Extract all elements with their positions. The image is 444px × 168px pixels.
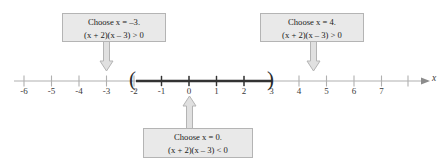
axis-variable-label: x bbox=[432, 73, 436, 83]
interval-open-bracket: ( bbox=[129, 69, 136, 90]
tick-label-1: 1 bbox=[205, 86, 229, 96]
tick-label-neg3: -3 bbox=[95, 86, 119, 96]
interval-close-bracket: ) bbox=[267, 69, 274, 90]
down-arrow-icon bbox=[306, 41, 321, 72]
up-arrow-icon bbox=[182, 95, 197, 129]
callout-choose-0: Choose x = 0. (x + 2)(x – 3) < 0 bbox=[143, 128, 253, 158]
callout-right-line2: (x + 2)(x – 3) > 0 bbox=[261, 29, 363, 42]
tick-label-neg5: -5 bbox=[40, 86, 64, 96]
callout-right-line1: Choose x = 4. bbox=[261, 16, 363, 29]
tick-label-neg1: -1 bbox=[150, 86, 174, 96]
down-arrow-icon bbox=[99, 41, 114, 72]
callout-bottom-line2: (x + 2)(x – 3) < 0 bbox=[144, 144, 252, 157]
tick-label-4: 4 bbox=[287, 86, 311, 96]
axis-arrowhead-icon bbox=[421, 78, 430, 85]
tick-label-6: 6 bbox=[342, 86, 366, 96]
callout-choose-neg3: Choose x = –3. (x + 2)(x – 3) > 0 bbox=[62, 13, 166, 42]
tick-label-2: 2 bbox=[232, 86, 256, 96]
tick-label-neg6: -6 bbox=[12, 86, 36, 96]
callout-left-line1: Choose x = –3. bbox=[63, 16, 165, 29]
number-line-figure: ( ) -6 -5 -4 -3 -2 -1 0 1 2 3 4 5 6 7 x … bbox=[0, 0, 444, 168]
tick-label-neg4: -4 bbox=[67, 86, 91, 96]
callout-bottom-line1: Choose x = 0. bbox=[144, 131, 252, 144]
callout-left-line2: (x + 2)(x – 3) > 0 bbox=[63, 29, 165, 42]
callout-choose-4: Choose x = 4. (x + 2)(x – 3) > 0 bbox=[260, 13, 364, 42]
tick-label-7: 7 bbox=[370, 86, 394, 96]
tick-label-5: 5 bbox=[315, 86, 339, 96]
